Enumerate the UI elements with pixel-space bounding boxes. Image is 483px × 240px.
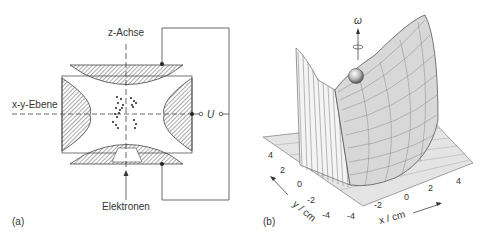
y-tick: -2 [307, 195, 315, 205]
x-axis-label: x / cm [378, 208, 407, 226]
left-ring-electrode [62, 78, 91, 151]
right-ring-electrode [164, 78, 192, 151]
electrons-label: Elektronen [102, 201, 150, 212]
figure-canvas: z-Achse x-y-Ebene U Elektronen (a) [0, 0, 483, 240]
y-tick: 2 [280, 165, 285, 175]
x-tick: 0 [404, 192, 409, 202]
terminal-left [199, 112, 203, 116]
panel-a-penning-trap: z-Achse x-y-Ebene U Elektronen (a) [12, 27, 229, 227]
y-tick: -4 [322, 210, 330, 220]
z-axis-label: z-Achse [108, 27, 145, 38]
x-tick: 2 [428, 183, 433, 193]
ball [349, 69, 364, 84]
y-tick: 4 [268, 150, 273, 160]
electron-cloud [112, 96, 137, 129]
y-axis-arrow [272, 178, 288, 195]
omega-label: ω [354, 15, 362, 26]
terminal-right [219, 112, 223, 116]
xy-plane-label: x-y-Ebene [12, 99, 58, 110]
panel-b-saddle-surface: ω 4 2 0 -2 -4 -4 -2 0 2 4 y / cm x / cm … [263, 15, 473, 227]
x-tick: 4 [456, 176, 461, 186]
x-axis-arrow [413, 204, 440, 213]
voltage-label: U [207, 109, 215, 120]
x-tick: -2 [374, 200, 382, 210]
top-endcap-electrode [70, 65, 183, 85]
x-tick: -4 [347, 211, 355, 221]
panel-b-label: (b) [263, 216, 275, 227]
panel-a-label: (a) [12, 216, 24, 227]
y-tick: 0 [297, 179, 302, 189]
